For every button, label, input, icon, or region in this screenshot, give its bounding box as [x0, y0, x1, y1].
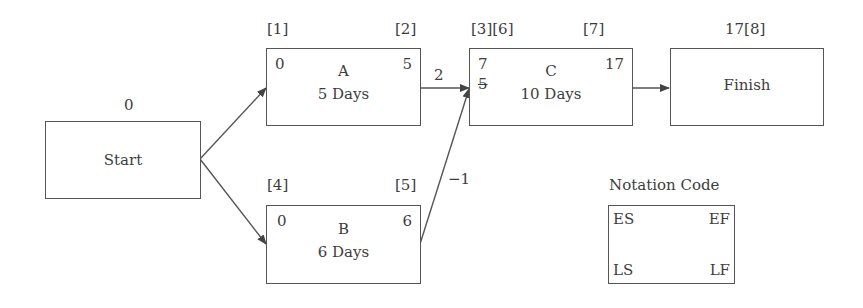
a-duration: 5 Days	[267, 84, 420, 104]
start-name: Start	[46, 150, 200, 170]
node-a: 0 5 A 5 Days	[266, 48, 421, 126]
legend-title: Notation Code	[609, 176, 719, 194]
node-finish: Finish	[670, 48, 824, 126]
network-diagram: 0 Start [1] [2] 0 5 A 5 Days [4] [5] 0 6…	[0, 0, 863, 308]
legend-box: ES EF LS LF	[608, 205, 735, 284]
legend-es: ES	[613, 210, 634, 228]
b-tag-right: [5]	[395, 176, 416, 194]
b-name: B	[267, 219, 420, 239]
c-tag-right: [7]	[583, 20, 604, 38]
b-duration: 6 Days	[267, 242, 420, 262]
edge-b-c-label: −1	[448, 170, 470, 188]
edge-start-b	[200, 159, 266, 244]
start-top-label: 0	[124, 96, 134, 114]
c-name: C	[470, 61, 632, 81]
node-c: 7 5 17 C 10 Days	[469, 48, 633, 126]
a-tag-left: [1]	[267, 20, 288, 38]
c-duration: 10 Days	[470, 84, 632, 104]
edge-a-c-label: 2	[434, 66, 444, 84]
edge-start-a	[200, 88, 266, 159]
a-tag-right: [2]	[395, 20, 416, 38]
b-tag-left: [4]	[267, 176, 288, 194]
edge-b-c	[420, 89, 469, 244]
c-tag-left: [3][6]	[471, 20, 514, 38]
legend-ef: EF	[709, 210, 730, 228]
node-start: Start	[45, 121, 201, 199]
node-b: 0 6 B 6 Days	[266, 205, 421, 284]
legend-lf: LF	[710, 261, 730, 279]
a-name: A	[267, 61, 420, 81]
finish-name: Finish	[671, 75, 823, 95]
legend-ls: LS	[613, 261, 633, 279]
finish-top-label: 17[8]	[725, 20, 765, 38]
